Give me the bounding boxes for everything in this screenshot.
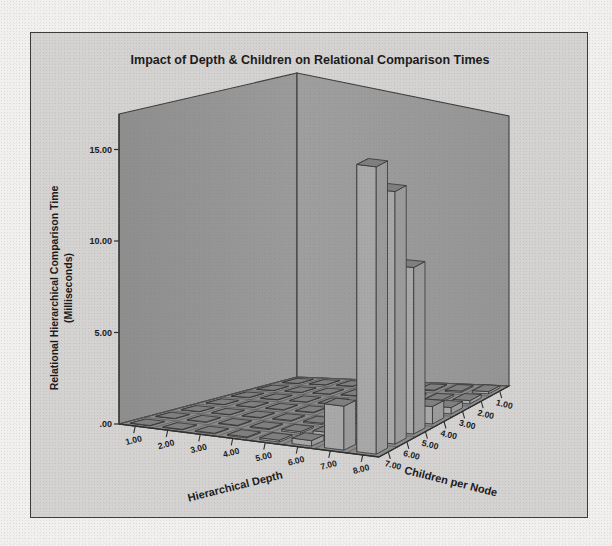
x-tick-label: 3.00 — [189, 441, 208, 455]
x-tick-label: 7.00 — [319, 458, 338, 472]
y-tick-label: 5.00 — [94, 328, 112, 338]
z-tick-label: 1.00 — [495, 397, 514, 411]
z-tick-label: 6.00 — [402, 448, 421, 462]
x-tick-label: 5.00 — [254, 450, 273, 464]
bar3d-plot: Impact of Depth & Children on Relational… — [31, 33, 588, 518]
z-tick-label: 4.00 — [439, 428, 458, 442]
z-axis-label: Children per Node — [403, 464, 498, 499]
z-tick-label: 2.00 — [477, 407, 496, 421]
y-axis-label-line1: Relational Hierarchical Comparison Time — [48, 186, 60, 391]
x-tick-label: 2.00 — [157, 437, 176, 451]
y-axis-label: Relational Hierarchical Comparison Time … — [48, 186, 74, 391]
bar-3d — [325, 398, 356, 450]
back-wall-left — [119, 73, 297, 424]
y-tick-label: 15.00 — [89, 145, 112, 155]
bar-3d — [357, 159, 388, 455]
chart-frame: Impact of Depth & Children on Relational… — [30, 32, 588, 518]
y-tick-label: .00 — [99, 419, 112, 429]
x-tick-label: 6.00 — [287, 454, 306, 468]
y-axis: .005.0010.0015.00 — [89, 114, 119, 429]
z-tick-label: 5.00 — [421, 438, 440, 452]
y-axis-label-line2: (Milliseconds) — [62, 253, 74, 323]
z-tick-label: 3.00 — [458, 418, 477, 432]
x-axis-label: Hierarchical Depth — [186, 468, 283, 503]
x-tick-label: 8.00 — [352, 462, 371, 476]
z-tick-label: 7.00 — [384, 458, 403, 472]
chart-title: Impact of Depth & Children on Relational… — [131, 53, 490, 67]
x-tick-label: 4.00 — [222, 446, 241, 460]
x-tick-label: 1.00 — [124, 433, 143, 447]
y-tick-label: 10.00 — [89, 236, 112, 246]
